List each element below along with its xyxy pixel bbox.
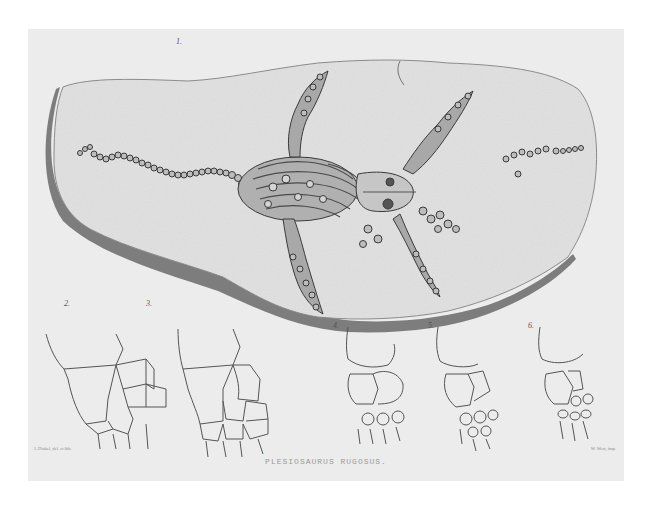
figure-6-number: 6. xyxy=(528,321,534,330)
figure-5-number: 5. xyxy=(428,321,434,330)
plate-illustration xyxy=(28,29,624,481)
plate-title: PLESIOSAURUS RUGOSUS. xyxy=(28,457,624,466)
figure-3-diagram xyxy=(178,329,268,457)
artist-credit: J. Dinkel, del. et lith. xyxy=(34,446,72,451)
printer-credit: W. West, imp. xyxy=(591,446,616,451)
engraved-plate: 1. 2. 3. 4. 5. 6. J. Dinkel, del. et lit… xyxy=(28,29,624,481)
figure-2-number: 2. xyxy=(64,299,70,308)
figure-2-diagram xyxy=(46,334,166,449)
limb-diagrams xyxy=(46,327,593,457)
figure-4-number: 4. xyxy=(333,321,339,330)
pelvis-foramen-1 xyxy=(386,178,394,186)
figure-4-diagram xyxy=(347,327,405,444)
figure-1-number: 1. xyxy=(176,37,182,46)
figure-3-number: 3. xyxy=(146,299,152,308)
figure-6-diagram xyxy=(539,327,593,441)
figure-5-diagram xyxy=(437,327,498,451)
pelvis-foramen-2 xyxy=(383,199,393,209)
